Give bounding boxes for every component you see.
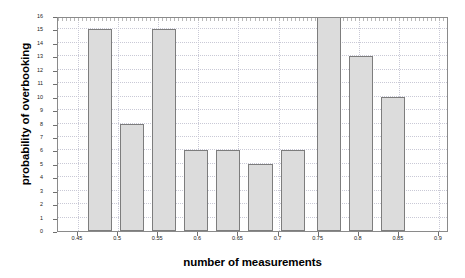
- bar: [317, 17, 341, 231]
- minor-tick: [347, 18, 348, 21]
- bar: [216, 150, 240, 231]
- gridline-x-0.45: [78, 18, 79, 231]
- minor-tick: [174, 18, 175, 21]
- minor-tick: [154, 18, 155, 21]
- y-tick-mark: [53, 165, 57, 166]
- minor-tick: [275, 18, 276, 21]
- minor-tick: [303, 18, 304, 21]
- x-tick-label: 0.45: [57, 236, 97, 242]
- minor-tick: [226, 18, 227, 21]
- minor-tick: [230, 18, 231, 21]
- gridline-y-11: [58, 82, 447, 83]
- minor-tick: [238, 18, 239, 21]
- y-tick-label: 3: [13, 189, 43, 194]
- y-tick-mark: [53, 192, 57, 193]
- minor-tick: [106, 18, 107, 21]
- x-tick-label: 0.8: [338, 236, 378, 242]
- minor-tick: [299, 18, 300, 21]
- minor-tick: [82, 18, 83, 21]
- x-tick-mark: [157, 232, 158, 236]
- gridline-y-13: [58, 55, 447, 56]
- minor-tick: [359, 18, 360, 21]
- x-tick-label: 0.75: [298, 236, 338, 242]
- y-tick-mark: [53, 98, 57, 99]
- minor-tick: [263, 18, 264, 21]
- minor-tick: [311, 18, 312, 21]
- y-tick-label: 10: [13, 95, 43, 100]
- minor-tick: [375, 18, 376, 21]
- gridline-y-12: [58, 69, 447, 70]
- minor-tick: [267, 18, 268, 21]
- y-tick-mark: [53, 125, 57, 126]
- minor-tick: [291, 18, 292, 21]
- gridline-x-0.7: [279, 18, 280, 231]
- minor-tick: [443, 18, 444, 21]
- minor-tick: [391, 18, 392, 21]
- x-tick-mark: [197, 232, 198, 236]
- y-tick-label: 7: [13, 135, 43, 140]
- minor-tick: [70, 18, 71, 21]
- bar: [120, 124, 144, 232]
- y-tick-label: 13: [13, 54, 43, 59]
- minor-tick: [403, 18, 404, 21]
- minor-tick: [170, 18, 171, 21]
- minor-tick: [162, 18, 163, 21]
- bar: [248, 164, 272, 231]
- minor-tick: [122, 18, 123, 21]
- minor-tick: [190, 18, 191, 21]
- minor-tick: [395, 18, 396, 21]
- minor-tick: [411, 18, 412, 21]
- minor-tick: [367, 18, 368, 21]
- minor-tick: [419, 18, 420, 21]
- minor-tick: [146, 18, 147, 21]
- minor-tick: [439, 18, 440, 21]
- y-tick-label: 1: [13, 216, 43, 221]
- minor-tick: [383, 18, 384, 21]
- chart-figure: probability of overbooking 0123456789101…: [0, 0, 465, 278]
- minor-tick: [351, 18, 352, 21]
- x-tick-mark: [117, 232, 118, 236]
- gridline-x-0.9: [439, 18, 440, 231]
- minor-tick: [407, 18, 408, 21]
- minor-tick: [387, 18, 388, 21]
- minor-tick: [435, 18, 436, 21]
- x-tick-mark: [398, 232, 399, 236]
- bar: [381, 97, 405, 231]
- minor-tick: [423, 18, 424, 21]
- minor-tick: [194, 18, 195, 21]
- minor-tick: [250, 18, 251, 21]
- minor-tick: [287, 18, 288, 21]
- minor-tick: [182, 18, 183, 21]
- x-tick-label: 0.6: [177, 236, 217, 242]
- minor-tick: [379, 18, 380, 21]
- x-axis-title: number of measurements: [57, 256, 448, 268]
- bar: [152, 29, 176, 231]
- minor-tick: [158, 18, 159, 21]
- y-tick-mark: [53, 219, 57, 220]
- y-tick-label: 9: [13, 108, 43, 113]
- minor-tick: [307, 18, 308, 21]
- minor-tick: [399, 18, 400, 21]
- minor-tick: [295, 18, 296, 21]
- minor-tick: [90, 18, 91, 21]
- minor-tick: [343, 18, 344, 21]
- y-tick-label: 16: [13, 14, 43, 19]
- x-tick-label: 0.9: [418, 236, 458, 242]
- minor-tick: [242, 18, 243, 21]
- x-tick-label: 0.7: [258, 236, 298, 242]
- y-tick-mark: [53, 232, 57, 233]
- minor-tick: [427, 18, 428, 21]
- minor-tick: [102, 18, 103, 21]
- minor-tick: [431, 18, 432, 21]
- minor-tick: [150, 18, 151, 21]
- minor-tick: [114, 18, 115, 21]
- y-tick-label: 2: [13, 202, 43, 207]
- minor-tick: [94, 18, 95, 21]
- minor-tick: [255, 18, 256, 21]
- x-tick-label: 0.85: [378, 236, 418, 242]
- y-tick-label: 5: [13, 162, 43, 167]
- minor-tick: [78, 18, 79, 21]
- gridline-x-0.5: [118, 18, 119, 231]
- minor-tick: [415, 18, 416, 21]
- x-tick-mark: [318, 232, 319, 236]
